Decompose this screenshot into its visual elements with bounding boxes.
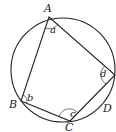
angle-label-d: d bbox=[100, 68, 106, 79]
angle-label-c: c bbox=[70, 108, 76, 119]
angle-label-b: b bbox=[27, 92, 33, 103]
vertex-label-d: D bbox=[102, 102, 112, 115]
cyclic-quadrilateral-diagram: A B C D a b c d bbox=[0, 0, 116, 132]
vertex-label-a: A bbox=[43, 2, 52, 15]
vertex-label-c: C bbox=[65, 121, 74, 132]
vertex-label-b: B bbox=[8, 98, 17, 111]
angle-label-a: a bbox=[50, 24, 56, 35]
